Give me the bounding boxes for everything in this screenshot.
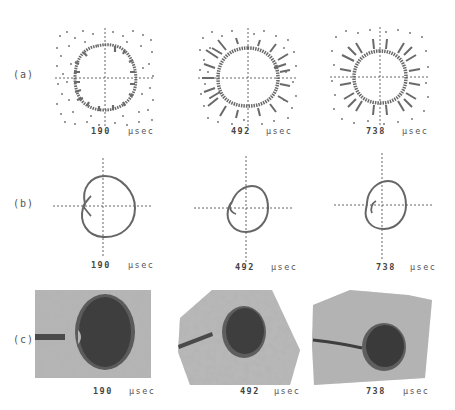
outline-panel-738 xyxy=(334,153,432,261)
unit-label-a-738: µsec xyxy=(402,126,428,136)
photo-panel-190 xyxy=(35,290,151,378)
time-label-b-492: 492 xyxy=(235,262,255,272)
unit-label-c-190: µsec xyxy=(129,386,155,396)
time-label-c-492: 492 xyxy=(240,386,260,396)
time-label-a-492: 492 xyxy=(231,126,251,136)
unit-label-b-190: µsec xyxy=(128,260,154,270)
time-label-a-738: 738 xyxy=(366,126,386,136)
scatter-panel-492 xyxy=(198,28,298,128)
unit-label-a-190: µsec xyxy=(128,126,154,136)
time-label-c-738: 738 xyxy=(366,386,386,396)
time-label-a-190: 190 xyxy=(91,126,111,136)
time-label-c-190: 190 xyxy=(93,386,113,396)
unit-label-b-492: µsec xyxy=(271,262,297,272)
photo-panel-492 xyxy=(178,290,300,385)
outline-panel-492 xyxy=(194,156,294,264)
unit-label-c-738: µsec xyxy=(403,386,429,396)
scatter-panel-738 xyxy=(330,27,430,127)
unit-label-c-492: µsec xyxy=(274,386,300,396)
figure-graphics xyxy=(0,0,455,410)
unit-label-b-738: µsec xyxy=(410,262,436,272)
time-label-b-190: 190 xyxy=(91,260,111,270)
scatter-panel-190 xyxy=(55,28,155,128)
unit-label-a-492: µsec xyxy=(266,126,292,136)
time-label-b-738: 738 xyxy=(376,262,396,272)
photo-panel-738 xyxy=(312,290,432,385)
outline-panel-190 xyxy=(53,158,153,258)
